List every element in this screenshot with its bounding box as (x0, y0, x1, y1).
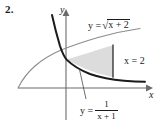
frac-label-lhs: y = (80, 106, 93, 116)
hyperbola-curve-label: y = 1 x + 1 (80, 100, 118, 121)
fraction-numerator: 1 (102, 100, 111, 110)
textbook-figure: 2. y x y =√x + 2 x = 2 y = 1 x + 1 (0, 0, 160, 131)
sqrt-curve-label: y =√x + 2 (88, 20, 130, 31)
leader-line (80, 70, 87, 100)
fraction-denominator: x + 1 (95, 111, 118, 121)
vertical-line-label: x = 2 (124, 56, 145, 66)
radicand: x + 2 (107, 19, 130, 30)
y-axis-label: y (60, 4, 64, 15)
shaded-region (67, 45, 113, 77)
x-axis-label: x (149, 89, 153, 100)
sqrt-label-lhs: y = (88, 20, 101, 31)
fraction-group: 1 x + 1 (95, 100, 118, 121)
radical-group: √x + 2 (101, 20, 130, 31)
